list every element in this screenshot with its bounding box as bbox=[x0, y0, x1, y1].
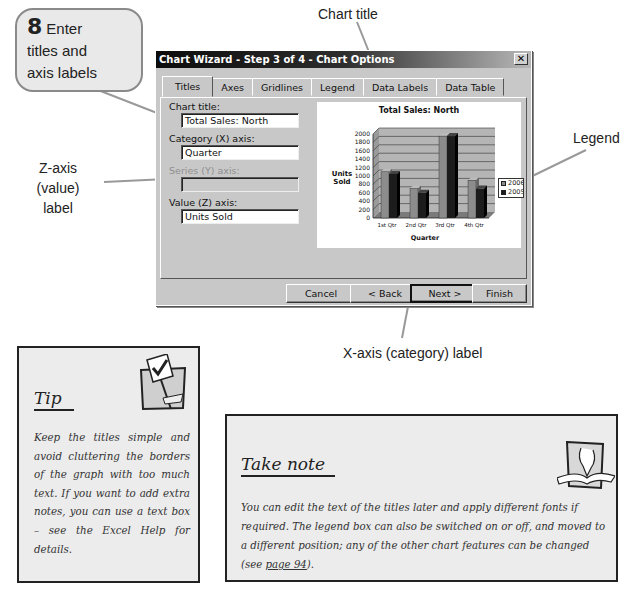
next-button[interactable]: Next > bbox=[410, 284, 480, 303]
tab-legend[interactable]: Legend bbox=[311, 78, 364, 96]
svg-text:2000: 2000 bbox=[355, 130, 370, 137]
tab-gridlines[interactable]: Gridlines bbox=[252, 78, 312, 96]
titles-tab-panel: Chart title: Total Sales: North Category… bbox=[160, 97, 527, 279]
svg-text:0: 0 bbox=[366, 214, 370, 221]
series-y-axis-input bbox=[181, 177, 299, 192]
svg-text:1200: 1200 bbox=[355, 164, 370, 171]
value-z-axis-input[interactable]: Units Sold bbox=[181, 209, 299, 224]
step-number: 8 bbox=[27, 14, 42, 39]
category-label-q2: 2nd Qtr bbox=[406, 222, 428, 228]
chart-wizard-dialog: Chart Wizard - Step 3 of 4 - Chart Optio… bbox=[155, 50, 532, 306]
svg-text:1400: 1400 bbox=[355, 155, 370, 162]
page-94-link[interactable]: page 94 bbox=[266, 559, 307, 570]
category-label-q3: 3rd Qtr bbox=[435, 222, 455, 228]
category-label-q4: 4th Qtr bbox=[464, 222, 484, 228]
legend-swatch-2006 bbox=[501, 181, 506, 186]
legend-label-2005: 2005 bbox=[508, 188, 524, 196]
annotation-x-axis: X-axis (category) label bbox=[343, 343, 482, 363]
annotation-z-axis-line1: Z-axis bbox=[30, 158, 86, 178]
close-icon: ✕ bbox=[517, 53, 525, 64]
checkmark-sign-icon bbox=[137, 354, 189, 412]
svg-text:200: 200 bbox=[359, 206, 371, 213]
annotation-chart-title: Chart title bbox=[318, 4, 378, 24]
step-text-line2: titles and bbox=[27, 40, 133, 62]
svg-text:1600: 1600 bbox=[355, 147, 370, 154]
svg-text:600: 600 bbox=[359, 189, 371, 196]
dialog-title: Chart Wizard - Step 3 of 4 - Chart Optio… bbox=[159, 54, 394, 65]
take-note-box: Take note You can edit the text of the t… bbox=[225, 414, 618, 582]
preview-x-axis-label: Quarter bbox=[385, 234, 465, 242]
svg-text:800: 800 bbox=[359, 180, 371, 187]
close-button[interactable]: ✕ bbox=[514, 53, 528, 65]
legend-entry-2006: 2006 bbox=[501, 179, 523, 188]
legend-entry-2005: 2005 bbox=[501, 188, 523, 197]
tab-axes[interactable]: Axes bbox=[212, 78, 253, 96]
dialog-titlebar: Chart Wizard - Step 3 of 4 - Chart Optio… bbox=[156, 51, 531, 68]
hand-writing-icon bbox=[557, 438, 615, 490]
take-note-heading: Take note bbox=[241, 454, 335, 477]
step-callout: 8Enter titles and axis labels bbox=[15, 8, 143, 92]
tip-box: Tip Keep the titles simple and avoid clu… bbox=[17, 346, 200, 583]
step-text-line3: axis labels bbox=[27, 62, 133, 84]
cancel-button[interactable]: Cancel bbox=[286, 284, 356, 303]
annotation-z-axis-line3: label bbox=[30, 198, 86, 218]
chart-title-label: Chart title: bbox=[169, 101, 220, 112]
tab-titles[interactable]: Titles bbox=[162, 76, 213, 97]
category-x-axis-label: Category (X) axis: bbox=[169, 133, 255, 144]
annotation-z-axis-line2: (value) bbox=[30, 178, 86, 198]
chart-title-input[interactable]: Total Sales: North bbox=[181, 113, 299, 128]
legend-swatch-2005 bbox=[501, 190, 506, 195]
annotation-legend: Legend bbox=[573, 128, 620, 148]
value-z-axis-label: Value (Z) axis: bbox=[169, 197, 237, 208]
svg-text:1800: 1800 bbox=[355, 138, 370, 145]
legend-label-2006: 2006 bbox=[508, 179, 524, 187]
preview-3d-column-chart: 0200400 6008001000 120014001600 18002000 bbox=[317, 102, 521, 248]
category-x-axis-input[interactable]: Quarter bbox=[181, 145, 299, 160]
tab-data-labels[interactable]: Data Labels bbox=[363, 78, 437, 96]
tip-body: Keep the titles simple and avoid clutter… bbox=[34, 428, 190, 558]
tab-bar: Titles Axes Gridlines Legend Data Labels… bbox=[162, 78, 503, 97]
tab-data-table[interactable]: Data Table bbox=[436, 78, 504, 96]
finish-button[interactable]: Finish bbox=[472, 284, 527, 303]
preview-legend: 2006 2005 bbox=[498, 178, 524, 198]
category-label-q1: 1st Qtr bbox=[377, 222, 397, 228]
chart-preview: Total Sales: North Units Sold bbox=[317, 102, 521, 248]
step-text-line1: Enter bbox=[46, 20, 82, 37]
take-note-text-end: ). bbox=[307, 559, 314, 570]
tip-heading: Tip bbox=[34, 388, 74, 411]
svg-text:1000: 1000 bbox=[355, 172, 370, 179]
take-note-body: You can edit the text of the titles late… bbox=[241, 498, 606, 574]
svg-text:400: 400 bbox=[359, 197, 371, 204]
annotation-z-axis: Z-axis (value) label bbox=[30, 158, 86, 218]
series-y-axis-label: Series (Y) axis: bbox=[169, 165, 240, 176]
